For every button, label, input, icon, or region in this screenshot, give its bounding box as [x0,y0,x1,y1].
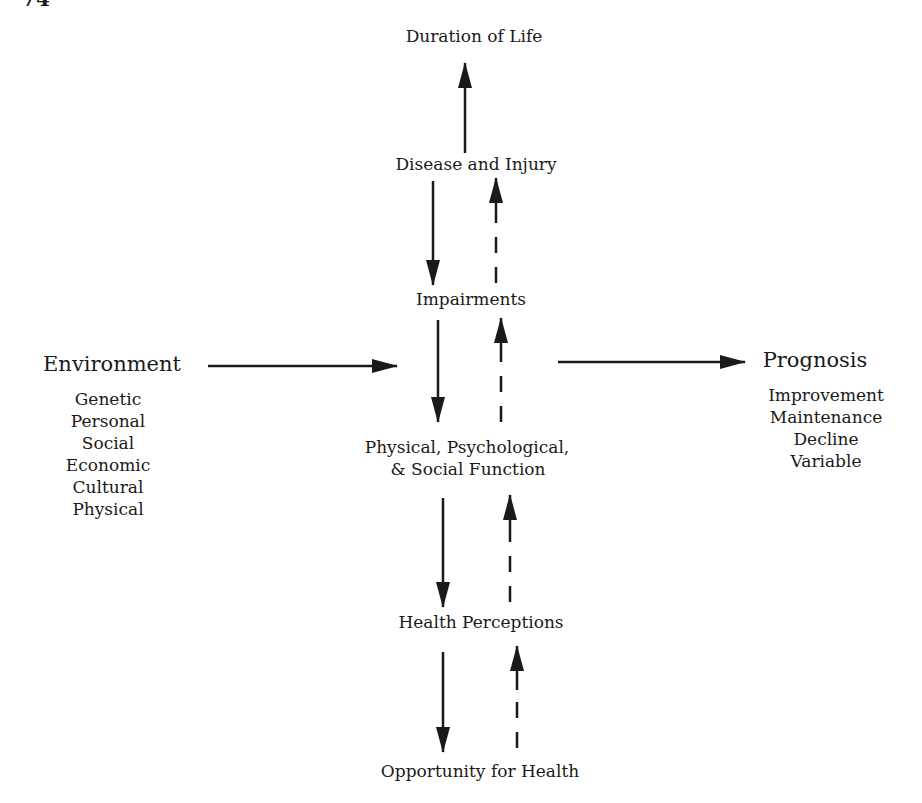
node-disease-and-injury: Disease and Injury [395,154,556,174]
environment-item: Social [66,432,150,454]
environment-item: Genetic [66,388,150,410]
prognosis-item: Variable [768,450,884,472]
prognosis-title: Prognosis [763,348,868,372]
environment-item: Economic [66,454,150,476]
node-health-perceptions: Health Perceptions [398,612,563,632]
environment-title: Environment [43,352,181,376]
node-function-line1: Physical, Psychological, [365,437,570,457]
environment-item: Cultural [66,476,150,498]
node-opportunity-for-health: Opportunity for Health [381,761,579,781]
node-impairments: Impairments [416,289,526,309]
node-duration-of-life: Duration of Life [406,26,543,46]
prognosis-item: Decline [768,428,884,450]
node-function-line2: & Social Function [390,459,545,479]
prognosis-item: Improvement [768,384,884,406]
prognosis-list: Improvement Maintenance Decline Variable [768,384,884,472]
environment-item: Physical [66,498,150,520]
prognosis-item: Maintenance [768,406,884,428]
environment-item: Personal [66,410,150,432]
environment-list: Genetic Personal Social Economic Cultura… [66,388,150,520]
